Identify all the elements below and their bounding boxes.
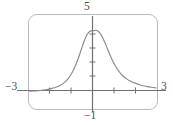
graph-canvas xyxy=(0,0,173,125)
x-min-label: −3 xyxy=(5,81,17,93)
x-max-label: 3 xyxy=(161,81,167,93)
graph-figure: 5 −3 3 −1 xyxy=(0,0,173,125)
y-min-label: −1 xyxy=(84,110,96,122)
y-max-label: 5 xyxy=(84,1,90,13)
